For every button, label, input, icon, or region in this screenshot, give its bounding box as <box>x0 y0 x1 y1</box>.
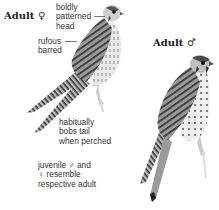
field-guide-plate: Adult ♀ Adult ♂ boldly patterned head ru… <box>0 0 219 210</box>
male-kestrel-figure <box>140 55 214 202</box>
male-title: Adult ♂ <box>153 37 196 48</box>
annotation-head: boldly patterned head <box>56 3 91 31</box>
kestrel-illustrations <box>0 0 219 210</box>
juvenile-note: juvenile ♂ and ♀ resemble respective adu… <box>38 161 96 189</box>
female-title: Adult ♀ <box>4 10 45 21</box>
annotation-tail: habitually bobs tail when perched <box>59 118 111 146</box>
leader-line-head <box>94 16 105 17</box>
annotation-back: rufous barred <box>38 37 62 56</box>
leader-line-back <box>65 41 77 42</box>
